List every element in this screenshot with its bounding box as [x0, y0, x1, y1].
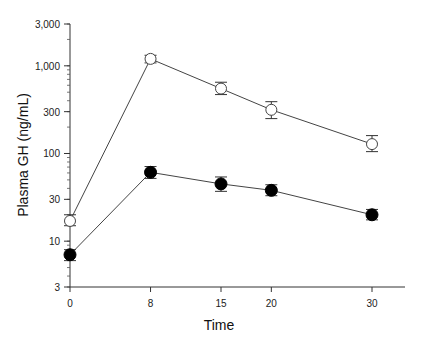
open-circle-marker	[266, 104, 277, 115]
open-circle-marker	[145, 53, 156, 64]
filled-circle-marker	[145, 166, 157, 178]
filled-circle-marker	[215, 178, 227, 190]
open-circle-marker	[216, 83, 227, 94]
y-axis-title: Plasma GH (ng/mL)	[15, 93, 31, 217]
x-tick-label: 30	[366, 298, 378, 309]
filled-circle-marker	[265, 184, 277, 196]
y-tick-label: 100	[43, 148, 60, 159]
x-tick-label: 20	[266, 298, 278, 309]
filled-circle-marker	[64, 249, 76, 261]
open-circle-marker	[367, 139, 378, 150]
x-axis-title: Time	[204, 317, 235, 333]
series-open-circles	[64, 53, 378, 226]
y-tick-label: 300	[43, 107, 60, 118]
chart: 310301003001,0003,000 08152030 Time Plas…	[0, 0, 441, 344]
series-layer	[64, 53, 378, 260]
filled-circle-marker	[366, 209, 378, 221]
x-tick-label: 15	[215, 298, 227, 309]
x-axis: 08152030	[67, 287, 405, 309]
x-tick-label: 8	[148, 298, 154, 309]
y-tick-label: 1,000	[35, 61, 60, 72]
y-tick-label: 3,000	[35, 19, 60, 30]
x-tick-label: 0	[67, 298, 73, 309]
series-filled-circles	[64, 166, 378, 260]
y-tick-label: 3	[54, 282, 60, 293]
y-tick-label: 30	[49, 194, 61, 205]
y-tick-label: 10	[49, 236, 61, 247]
open-circle-marker	[65, 215, 76, 226]
